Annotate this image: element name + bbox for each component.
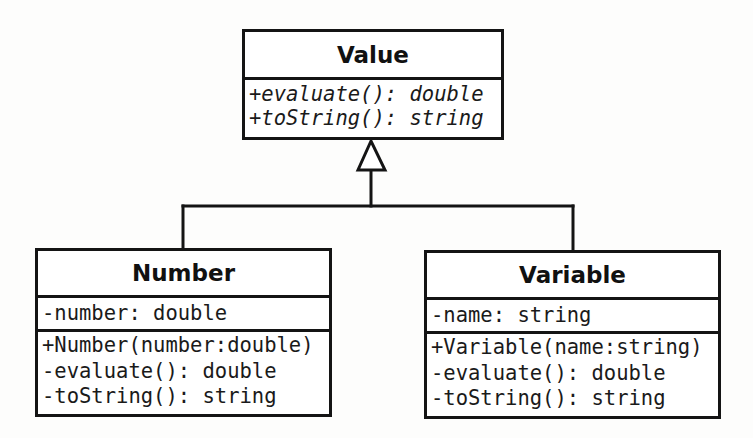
class-variable-name: Variable (427, 253, 718, 300)
class-variable-methods: +Variable(name:string) -evaluate(): doub… (427, 334, 718, 412)
class-variable[interactable]: Variable -name: string +Variable(name:st… (424, 250, 721, 419)
method: +Number(number:double) (42, 333, 329, 359)
class-value[interactable]: Value +evaluate(): double +toString(): s… (242, 29, 504, 140)
attribute: -name: string (431, 303, 591, 329)
class-number-attributes: -number: double (38, 298, 329, 332)
generalization-arrowhead-icon (358, 141, 385, 170)
method: +evaluate(): double (249, 82, 501, 106)
method: -evaluate(): double (42, 359, 329, 385)
class-number-name: Number (38, 251, 329, 298)
method: +Variable(name:string) (431, 335, 718, 361)
method: -evaluate(): double (431, 361, 718, 387)
class-value-name: Value (245, 32, 501, 80)
method: -toString(): string (42, 384, 329, 410)
class-value-methods: +evaluate(): double +toString(): string (245, 80, 501, 130)
method: -toString(): string (431, 386, 718, 412)
class-number-methods: +Number(number:double) -evaluate(): doub… (38, 332, 329, 410)
method: +toString(): string (249, 106, 501, 130)
class-variable-attributes: -name: string (427, 300, 718, 334)
attribute: -number: double (42, 301, 227, 327)
class-number[interactable]: Number -number: double +Number(number:do… (35, 248, 332, 417)
